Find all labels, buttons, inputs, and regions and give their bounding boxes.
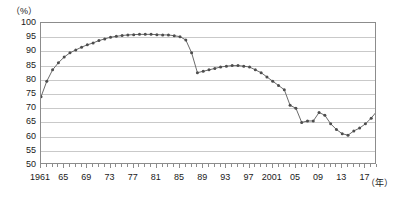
data-point	[173, 34, 176, 37]
data-point	[74, 48, 77, 51]
x-axis-minor-tick	[52, 164, 53, 167]
plot-area	[40, 22, 376, 164]
x-axis-minor-tick	[57, 164, 58, 167]
x-axis-tick-label: 85	[174, 172, 184, 182]
data-point	[126, 33, 129, 36]
x-axis-minor-tick	[220, 164, 221, 167]
x-axis-tick-label: 89	[197, 172, 207, 182]
x-axis-major-tick	[295, 164, 296, 168]
data-point	[138, 33, 141, 36]
data-point	[248, 66, 251, 69]
x-axis-major-tick	[133, 164, 134, 168]
x-axis-major-tick	[40, 164, 41, 168]
x-axis-minor-tick	[92, 164, 93, 167]
data-point	[155, 33, 158, 36]
data-point	[364, 122, 367, 125]
data-point	[41, 95, 43, 98]
data-series-line	[41, 23, 376, 164]
data-point	[68, 51, 71, 54]
x-axis-major-tick	[179, 164, 180, 168]
data-point	[132, 33, 135, 36]
x-axis-minor-tick	[254, 164, 255, 167]
x-axis-minor-tick	[104, 164, 105, 167]
data-point	[306, 119, 309, 122]
x-axis-tick-label: 97	[244, 172, 254, 182]
data-point	[335, 128, 338, 131]
x-axis-tick-label: 65	[58, 172, 68, 182]
x-axis-minor-tick	[167, 164, 168, 167]
data-point	[300, 121, 303, 124]
data-point	[97, 39, 100, 42]
data-point	[329, 122, 332, 125]
data-point	[109, 36, 112, 39]
x-axis-major-tick	[110, 164, 111, 168]
data-point	[86, 43, 89, 46]
data-point	[208, 68, 211, 71]
data-point	[150, 33, 153, 36]
x-axis-major-tick	[341, 164, 342, 168]
data-point	[45, 80, 48, 83]
y-axis-tick-label: 60	[6, 131, 36, 141]
x-axis-tick-label: 05	[290, 172, 300, 182]
x-axis-major-tick	[86, 164, 87, 168]
x-axis-unit-label: （年）	[366, 176, 393, 189]
data-point	[370, 117, 373, 120]
x-axis-minor-tick	[260, 164, 261, 167]
data-point	[57, 61, 60, 64]
x-axis-tick-label: 13	[336, 172, 346, 182]
x-axis-major-tick	[272, 164, 273, 168]
data-point	[144, 33, 147, 36]
data-point	[51, 68, 54, 71]
data-point	[260, 71, 263, 74]
data-point	[242, 65, 245, 68]
x-axis-minor-tick	[144, 164, 145, 167]
data-point	[103, 37, 106, 40]
x-axis-minor-tick	[208, 164, 209, 167]
data-point	[352, 129, 355, 132]
x-axis-minor-tick	[69, 164, 70, 167]
x-axis-major-tick	[364, 164, 365, 168]
data-point	[80, 46, 83, 49]
data-point	[376, 110, 377, 113]
data-point	[202, 70, 205, 73]
x-axis-major-tick	[249, 164, 250, 168]
x-axis-minor-tick	[359, 164, 360, 167]
data-point	[289, 104, 292, 107]
y-axis-tick-label: 95	[6, 31, 36, 41]
data-point	[271, 80, 274, 83]
data-point	[358, 127, 361, 130]
x-axis-minor-tick	[266, 164, 267, 167]
x-axis-major-tick	[318, 164, 319, 168]
x-axis-minor-tick	[185, 164, 186, 167]
x-axis-minor-tick	[173, 164, 174, 167]
x-axis-minor-tick	[278, 164, 279, 167]
x-axis-major-tick	[225, 164, 226, 168]
x-axis-tick-label: 93	[220, 172, 230, 182]
data-point	[283, 88, 286, 91]
x-axis-minor-tick	[376, 164, 377, 167]
x-axis-tick-label: 73	[105, 172, 115, 182]
x-axis-major-tick	[156, 164, 157, 168]
x-axis-minor-tick	[196, 164, 197, 167]
x-axis-tick-label: 77	[128, 172, 138, 182]
data-point	[167, 33, 170, 36]
x-axis-minor-tick	[162, 164, 163, 167]
x-axis-minor-tick	[46, 164, 47, 167]
y-axis-tick-label: 75	[6, 88, 36, 98]
x-axis-minor-tick	[370, 164, 371, 167]
x-axis-minor-tick	[138, 164, 139, 167]
data-point	[213, 67, 216, 70]
x-axis-tick-label: 17	[359, 172, 369, 182]
data-point	[236, 64, 239, 67]
data-point	[179, 35, 182, 38]
x-axis-tick-label: 69	[81, 172, 91, 182]
data-point	[323, 114, 326, 117]
y-axis-tick-label: 80	[6, 74, 36, 84]
x-axis-minor-tick	[243, 164, 244, 167]
x-axis-tick-label: 09	[313, 172, 323, 182]
x-axis-minor-tick	[353, 164, 354, 167]
x-axis-minor-tick	[81, 164, 82, 167]
y-axis-tick-label: 100	[6, 17, 36, 27]
y-axis-tick-label: 55	[6, 145, 36, 155]
x-axis-minor-tick	[330, 164, 331, 167]
